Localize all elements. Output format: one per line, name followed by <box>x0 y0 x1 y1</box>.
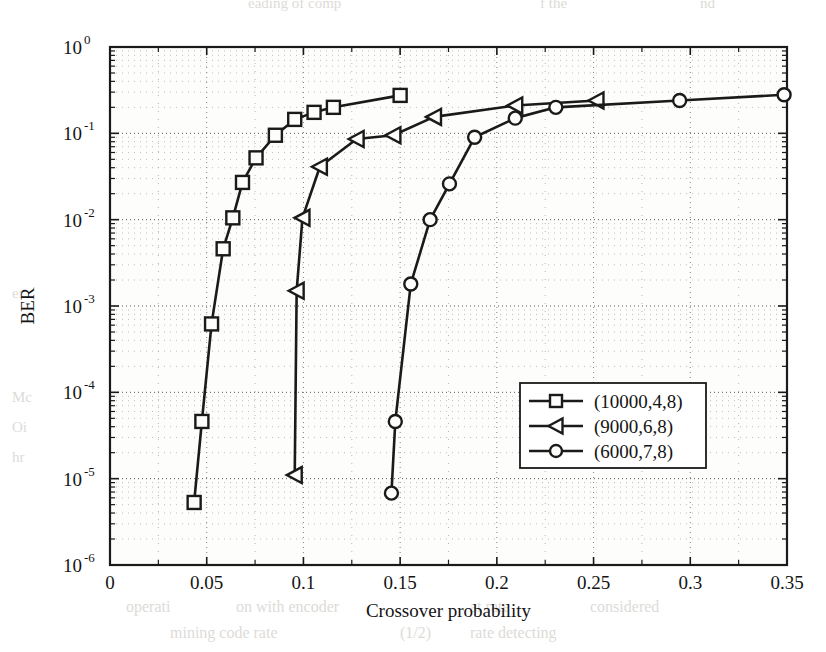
marker-circle <box>673 94 686 107</box>
marker-circle <box>778 88 791 101</box>
y-tick-label-base: 10 <box>63 123 82 144</box>
marker-circle <box>550 445 562 457</box>
background-text-fragment: nd <box>700 0 716 11</box>
legend-label: (10000,4,8) <box>594 391 683 413</box>
marker-square <box>327 101 340 114</box>
y-tick-label: 100 <box>63 32 91 58</box>
marker-square <box>217 242 230 255</box>
marker-square <box>308 106 321 119</box>
y-tick-label: 10-3 <box>63 291 95 317</box>
x-tick-label: 0.1 <box>292 572 316 593</box>
y-tick-label-exponent: -6 <box>84 550 95 565</box>
y-tick-label-exponent: -5 <box>84 464 95 479</box>
marker-circle <box>468 131 481 144</box>
marker-square <box>226 211 239 224</box>
y-axis-title: BER <box>17 287 38 324</box>
background-text-fragment: on with encoder <box>236 598 340 615</box>
y-tick-label-exponent: -4 <box>84 377 95 392</box>
x-tick-label: 0 <box>105 572 115 593</box>
marker-circle <box>404 277 417 290</box>
y-tick-label-base: 10 <box>63 382 82 403</box>
marker-circle <box>443 177 456 190</box>
x-tick-label: 0.05 <box>190 572 223 593</box>
marker-square <box>195 415 208 428</box>
y-tick-label: 10-2 <box>63 205 95 231</box>
background-text-fragment: Oi <box>12 419 27 435</box>
x-tick-label: 0.25 <box>577 572 610 593</box>
marker-square <box>288 113 301 126</box>
x-tick-labels: 00.050.10.150.20.250.30.35 <box>105 572 803 593</box>
y-tick-labels: 10010-110-210-310-410-510-6 <box>63 32 95 576</box>
marker-circle <box>389 415 402 428</box>
legend-label: (9000,6,8) <box>594 416 673 438</box>
y-tick-label: 10-5 <box>63 464 95 490</box>
marker-square <box>205 317 218 330</box>
marker-square <box>236 176 249 189</box>
y-tick-label-exponent: -2 <box>84 205 95 220</box>
background-text-fragment: rate detecting <box>470 624 557 642</box>
y-tick-label-exponent: -3 <box>84 291 95 306</box>
background-text-fragment: (1/2) <box>400 624 431 642</box>
y-tick-label: 10-6 <box>63 550 95 576</box>
x-tick-label: 0.2 <box>485 572 509 593</box>
marker-circle <box>424 213 437 226</box>
y-tick-label: 10-1 <box>63 118 95 144</box>
background-text-fragment: f the <box>540 0 567 11</box>
y-tick-label-base: 10 <box>63 296 82 317</box>
marker-circle <box>549 101 562 114</box>
marker-square <box>269 129 282 142</box>
legend: (10000,4,8)(9000,6,8)(6000,7,8) <box>520 383 706 468</box>
y-tick-label-exponent: 0 <box>84 32 91 47</box>
marker-square <box>188 496 201 509</box>
chart-svg: eading of compf thenderMcOihroperation w… <box>0 0 826 652</box>
x-tick-label: 0.3 <box>678 572 702 593</box>
background-text-fragment: considered <box>590 598 659 615</box>
marker-circle <box>385 487 398 500</box>
background-text-fragment: hr <box>12 449 25 465</box>
x-tick-label: 0.15 <box>384 572 417 593</box>
background-text-fragment: Mc <box>12 389 32 405</box>
background-text-fragment: eading of comp <box>248 0 341 11</box>
background-text-fragment: operati <box>126 598 171 616</box>
y-tick-label: 10-4 <box>63 377 95 403</box>
marker-square <box>550 395 562 407</box>
y-tick-label-exponent: -1 <box>84 118 95 133</box>
chart-figure: eading of compf thenderMcOihroperation w… <box>0 0 826 652</box>
y-tick-label-base: 10 <box>63 37 82 58</box>
background-text-fragment: mining code rate <box>170 624 278 642</box>
x-axis-title: Crossover probability <box>366 600 532 621</box>
legend-label: (6000,7,8) <box>594 441 673 463</box>
y-tick-label-base: 10 <box>63 210 82 231</box>
x-tick-label: 0.35 <box>770 572 803 593</box>
y-tick-label-base: 10 <box>63 469 82 490</box>
marker-square <box>394 89 407 102</box>
y-tick-label-base: 10 <box>63 555 82 576</box>
marker-square <box>250 151 263 164</box>
marker-circle <box>509 112 522 125</box>
